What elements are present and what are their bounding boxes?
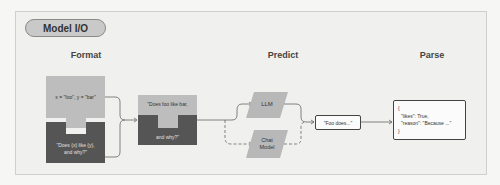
model-output-text: "Foo does..." xyxy=(324,120,353,126)
diagram-shapes xyxy=(0,0,500,185)
parsed-output-box: { "likes": True, "reason": "Because ..."… xyxy=(393,100,466,140)
template-line-1: "Does {x} like {y}, xyxy=(46,142,105,149)
template-line-2: and why?" xyxy=(46,149,105,156)
prompt-line-2: and why?" xyxy=(138,134,197,141)
variables-text: x = "foo", y = "bar" xyxy=(46,94,105,101)
chat-model-line-1: Chat xyxy=(250,137,284,144)
open-brace: { xyxy=(398,105,465,113)
variables-block xyxy=(46,76,105,128)
model-output-box: "Foo does..." xyxy=(315,115,361,130)
parsed-line-2: "reason": "Because ..." xyxy=(398,120,465,128)
close-brace: } xyxy=(398,128,465,136)
prompt-line-1: "Does foo like bar, xyxy=(138,101,197,108)
parsed-line-1: "likes": True, xyxy=(398,113,465,121)
template-text: "Does {x} like {y}, and why?" xyxy=(46,142,105,156)
chat-model-label: Chat Model xyxy=(250,137,284,151)
chat-model-line-2: Model xyxy=(250,144,284,151)
llm-label: LLM xyxy=(250,101,284,108)
